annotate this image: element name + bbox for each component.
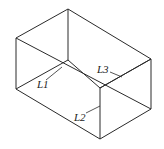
leader-l2 xyxy=(86,106,100,113)
edge-top-back-left xyxy=(16,9,68,38)
edge-bottom-left xyxy=(16,89,100,139)
edge-diagonal-inner xyxy=(68,60,100,88)
label-l3: L3 xyxy=(96,63,109,75)
box-diagram: L1 L3 L2 xyxy=(0,0,164,149)
edge-top-back-right xyxy=(68,9,151,59)
edge-bottom-right xyxy=(100,109,151,139)
leader-l3 xyxy=(110,72,122,77)
label-l1: L1 xyxy=(36,78,49,90)
label-l2: L2 xyxy=(73,111,86,123)
